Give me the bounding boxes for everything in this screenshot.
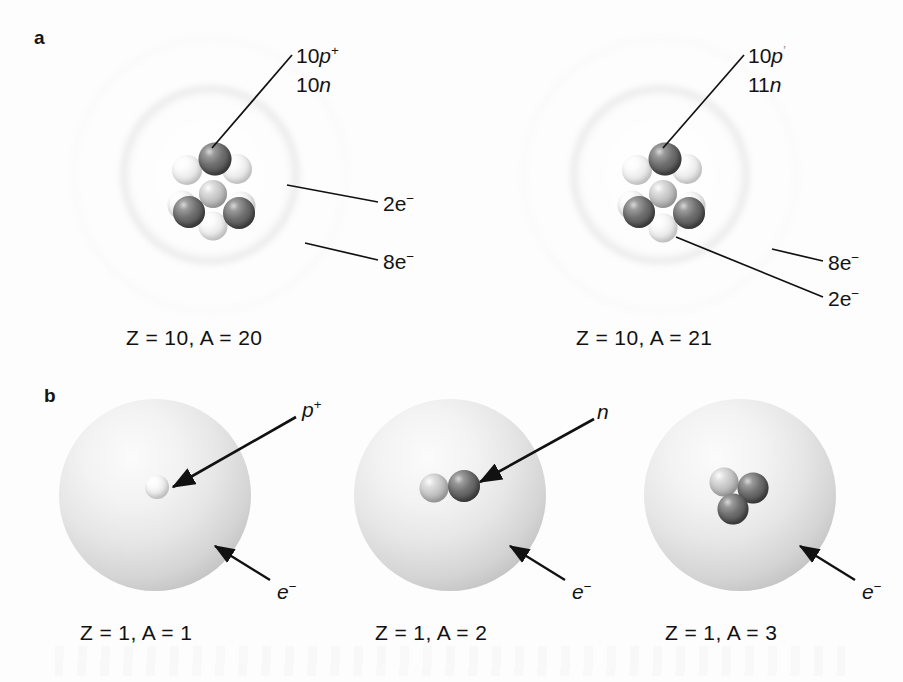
deuterium-electron-label: e− (572, 580, 592, 604)
deuterium-proton (420, 474, 449, 503)
atomic-structure-figure: a 10p+ 10n 2e− 8e− Z = 10, A = 20 (0, 0, 903, 682)
neon-21-neutron-count: 11 (748, 73, 770, 96)
protium-proton-label: p+ (302, 398, 322, 422)
protium-caption: Z = 1, A = 1 (80, 621, 192, 645)
nucleon-neutron (623, 196, 655, 228)
nucleon-neutron (673, 197, 705, 229)
neon-20-outer-shell-sign: − (406, 249, 414, 264)
neon-20-caption: Z = 10, A = 20 (126, 326, 262, 350)
neon-20-nucleus-neutron-label: 10n (296, 73, 331, 97)
neon-21-proton-count: 10 (748, 44, 771, 67)
neon-21-nucleus-neutron-label: 11n (748, 73, 782, 97)
neon-20-outer-shell-label: 8e− (383, 250, 414, 274)
neon-20-nucleus-proton-label: 10p+ (296, 44, 339, 68)
neon-21-outer-shell-text: 8e (828, 251, 851, 274)
neon-20-inner-shell-sign: − (406, 191, 414, 206)
deuterium-caption: Z = 1, A = 2 (375, 621, 487, 645)
neon-20-neutron-count: 10 (296, 73, 319, 96)
deuterium-electron-symbol: e (572, 580, 584, 603)
neon-21-proton-sign: ’ (783, 43, 786, 58)
neon-21-inner-shell-label: 2e− (828, 287, 859, 311)
nucleon-proton (172, 155, 202, 185)
neon-21-caption: Z = 10, A = 21 (576, 326, 712, 350)
panel-letter-a: a (34, 28, 45, 47)
tritium-caption: Z = 1, A = 3 (665, 621, 777, 645)
nucleon-neutron (649, 143, 682, 176)
neon-20-proton-count: 10 (296, 44, 319, 67)
neon-20-proton-sign: + (331, 43, 339, 58)
neon-20-proton-symbol: p (319, 44, 331, 67)
neon-20-neutron-symbol: n (319, 73, 331, 96)
protium-electron-label: e− (277, 580, 297, 604)
neon-21-outer-shell-label: 8e− (828, 251, 859, 275)
protium-proton (145, 475, 169, 499)
nucleon-neutron (223, 197, 255, 229)
nucleon-neutron (199, 143, 232, 176)
nucleon-proton (622, 155, 652, 185)
tritium-electron-sign: − (874, 579, 882, 594)
scan-artifact-band (55, 646, 845, 676)
tritium-electron-label: e− (862, 580, 882, 604)
neon-21-inner-shell-text: 2e (828, 287, 851, 310)
neon-21-inner-shell-sign: − (851, 286, 859, 301)
neon-21-proton-symbol: p (771, 44, 783, 67)
tritium-electron-symbol: e (862, 580, 874, 603)
protium-proton-sign: + (314, 397, 322, 412)
nucleon-neutron (173, 196, 205, 228)
protium-electron-sign: − (289, 579, 297, 594)
neon-21-neutron-symbol: n (770, 73, 782, 96)
deuterium-neutron-label: n (597, 400, 609, 424)
protium-electron-symbol: e (277, 580, 289, 603)
tritium-neutron (718, 494, 749, 525)
tritium-proton (710, 468, 739, 497)
neon-20-inner-shell-label: 2e− (383, 192, 414, 216)
neon-21-outer-shell-sign: − (851, 250, 859, 265)
panel-letter-b: b (44, 386, 56, 405)
neon-20-outer-shell-text: 8e (383, 250, 406, 273)
deuterium-neutron-symbol: n (597, 400, 609, 423)
neon-20-inner-shell-text: 2e (383, 192, 406, 215)
deuterium-electron-sign: − (584, 579, 592, 594)
neon-21-nucleus-proton-label: 10p’ (748, 44, 786, 68)
deuterium-neutron (448, 470, 480, 502)
protium-proton-symbol: p (302, 398, 314, 421)
